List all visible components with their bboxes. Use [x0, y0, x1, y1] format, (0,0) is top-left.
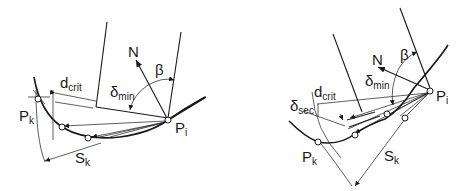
- left-dcrit-guide: [55, 102, 93, 108]
- left-pi-boundary: [168, 97, 206, 120]
- right-point-pi: [427, 88, 433, 94]
- left-label-s-k: Sk: [75, 150, 90, 165]
- left-label-n: N: [128, 44, 139, 59]
- left-point-pi: [165, 117, 171, 123]
- left-point-mid-1: [59, 124, 65, 130]
- right-sk-arc: [318, 140, 352, 186]
- left-ray-4: [110, 122, 166, 137]
- left-label-p-i: Pi: [175, 120, 187, 135]
- right-sec-small-arrow: [340, 114, 343, 120]
- left-label-p-k: Pk: [19, 108, 34, 123]
- right-label-n: N: [372, 52, 383, 67]
- right-label-d-crit: dcrit: [314, 84, 336, 99]
- left-cone-line-1: [96, 22, 107, 107]
- left-cone-line-2: [168, 32, 181, 118]
- left-point-pk: [35, 96, 41, 102]
- left-label-beta: β: [155, 62, 164, 77]
- right-point-mid-2: [384, 111, 390, 117]
- right-point-pk: [315, 139, 321, 145]
- diagram-canvas: [0, 0, 472, 191]
- right-label-p-i: Pi: [436, 88, 448, 103]
- left-beta-arc: [148, 79, 174, 85]
- left-sk-dimension: [45, 143, 101, 161]
- right-label-delta-min: δmin: [365, 73, 389, 88]
- right-label-beta: β: [400, 47, 409, 62]
- left-cone-base: [96, 107, 168, 118]
- right-label-p-k: Pk: [302, 149, 317, 164]
- left-point-mid-2: [85, 135, 91, 141]
- right-label-delta-sec: δsec: [290, 98, 314, 113]
- right-point-mid-1: [352, 132, 358, 138]
- right-label-s-k: Sk: [384, 148, 399, 163]
- left-label-delta-min: δmin: [110, 84, 134, 99]
- left-dcrit-dimension: [55, 93, 96, 101]
- right-point-mid-3: [402, 115, 408, 121]
- left-label-d-crit: dcrit: [60, 75, 82, 90]
